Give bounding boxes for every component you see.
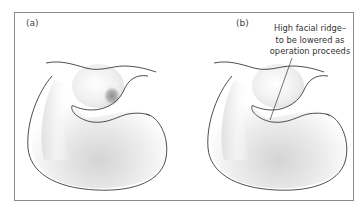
- tooth-panel-a: [28, 62, 167, 190]
- tooth-panel-b: [208, 58, 347, 190]
- tooth-illustrations: [0, 0, 363, 211]
